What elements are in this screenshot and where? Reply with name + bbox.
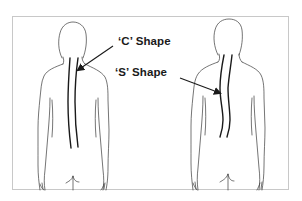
s-shape-label: ‘S’ Shape [115,66,167,78]
left-figure-outline [38,22,109,190]
right-figure-outline [191,19,265,190]
spine-illustration [0,0,302,201]
c-shape-label: ‘C’ Shape [118,35,171,47]
s-shape-arrow [180,78,220,93]
right-figure-spine [220,55,232,137]
left-figure-spine [68,58,78,148]
